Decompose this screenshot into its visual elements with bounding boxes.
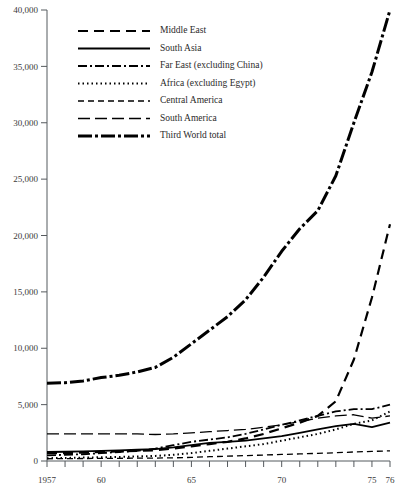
legend-label: Middle East <box>160 25 207 35</box>
legend-label: Central America <box>160 95 223 105</box>
legend-label: South Asia <box>160 43 202 53</box>
legend-label: Third World total <box>160 130 226 140</box>
legend-label: South America <box>160 113 218 123</box>
x-axis: 19576065707576 <box>38 461 395 485</box>
legend-label: Africa (excluding Egypt) <box>160 78 256 89</box>
y-axis: 05,00010,00015,00020,00025,00030,00035,0… <box>13 5 47 466</box>
series-line <box>47 224 390 453</box>
y-tick-label: 20,000 <box>13 231 38 241</box>
chart-legend: Middle EastSouth AsiaFar East (excluding… <box>78 25 263 140</box>
x-tick-label: 60 <box>97 475 107 485</box>
y-tick-label: 5,000 <box>18 400 39 410</box>
y-tick-label: 10,000 <box>13 343 38 353</box>
x-tick-label: 1957 <box>38 475 57 485</box>
series-line <box>47 415 390 435</box>
x-tick-label: 70 <box>277 475 287 485</box>
y-axis-ticks: 05,00010,00015,00020,00025,00030,00035,0… <box>13 5 47 466</box>
y-tick-label: 35,000 <box>13 62 38 72</box>
x-tick-label: 75 <box>367 475 377 485</box>
series-line <box>47 405 390 456</box>
series-line <box>47 423 390 452</box>
x-tick-label: 65 <box>187 475 197 485</box>
y-tick-label: 40,000 <box>13 5 38 15</box>
x-axis-ticks: 19576065707576 <box>38 461 395 485</box>
y-tick-label: 15,000 <box>13 287 38 297</box>
legend-label: Far East (excluding China) <box>160 60 263 71</box>
chart-container: 05,00010,00015,00020,00025,00030,00035,0… <box>0 0 406 493</box>
x-tick-label: 76 <box>386 475 396 485</box>
line-chart: 05,00010,00015,00020,00025,00030,00035,0… <box>0 0 406 493</box>
y-tick-label: 25,000 <box>13 174 38 184</box>
y-tick-label: 0 <box>34 456 39 466</box>
y-tick-label: 30,000 <box>13 118 38 128</box>
